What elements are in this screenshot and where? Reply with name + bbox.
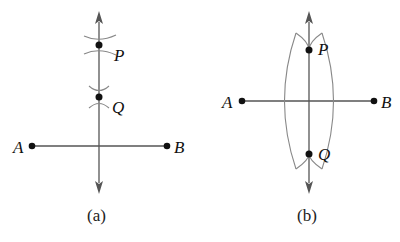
point-q-b bbox=[306, 151, 313, 158]
label-p-a: P bbox=[113, 46, 124, 65]
panel-a: A B P Q (a) bbox=[12, 11, 185, 225]
label-b-a: B bbox=[174, 138, 185, 157]
point-a-b bbox=[239, 98, 246, 105]
label-q-b: Q bbox=[318, 145, 330, 164]
label-a-b: A bbox=[221, 93, 233, 112]
label-a-a: A bbox=[12, 138, 24, 157]
panel-b: A B P Q (b) bbox=[221, 11, 392, 225]
point-b-a bbox=[164, 143, 171, 150]
caption-b: (b) bbox=[297, 206, 317, 225]
point-q-a bbox=[96, 94, 103, 101]
point-b-b bbox=[371, 98, 378, 105]
label-b-b: B bbox=[381, 93, 392, 112]
point-p-b bbox=[306, 47, 313, 54]
label-p-b: P bbox=[317, 40, 328, 59]
point-p-a bbox=[96, 42, 103, 49]
caption-a: (a) bbox=[87, 206, 106, 225]
point-a-a bbox=[29, 143, 36, 150]
geometry-figure: A B P Q (a) A B P Q (b) bbox=[0, 0, 400, 242]
label-q-a: Q bbox=[112, 98, 124, 117]
